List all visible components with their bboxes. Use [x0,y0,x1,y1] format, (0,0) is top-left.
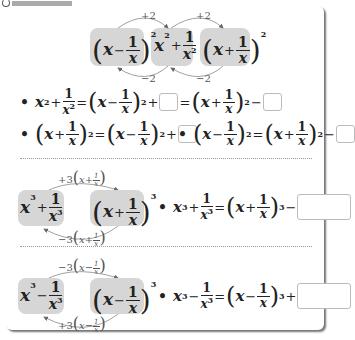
answer-box-5[interactable] [297,194,351,220]
answer-box-1[interactable] [159,93,178,111]
identity-row-2b: • (x−1x)2=(x+1x)2− [178,121,355,147]
expr-x-minus-inv-cube: (x−1x)3 [92,280,156,316]
arrow-label-bottom-left: −2 [141,74,156,84]
identity-row-1: • x2+1x2=(x−1x)2+=(x+1x)2− [20,88,282,116]
section-title-bar [12,1,72,6]
divider-1 [20,158,312,159]
divider-2 [20,246,312,247]
cube-minus-arrow-bottom-label: +3(x−1x) [58,316,106,334]
answer-box-4[interactable] [336,125,355,143]
expr-x-plus-inv-cube: (x+1x)3 [92,192,156,228]
arrow-label-top-left: +2 [141,11,156,21]
identity-cube-plus: • x3+1x3=(x+1x)3− [158,193,351,221]
answer-box-6[interactable] [297,283,351,309]
identity-row-2a: • (x+1x)2=(x−1x)2+ [20,121,197,147]
identity-cube-minus: • x3−1x3=(x−1x)3+ [158,282,351,310]
arrow-label-bottom-right: −2 [196,74,211,84]
cube-plus-arrow-top-label: +3(x+1x) [58,170,106,188]
expr-x-cube-plus-inv-cube: x3+1x3 [20,192,63,223]
answer-box-2[interactable] [263,93,282,111]
expr-x-cube-minus-inv-cube: x3−1x3 [20,280,63,311]
arrow-label-top-right: +2 [196,11,211,21]
formula-card: (x−1x)2 x2+1x2 (x+1x)2 +2 +2 −2 −2 • x2+… [6,6,324,330]
cube-minus-arrow-top-label: −3(x−1x) [58,258,106,276]
